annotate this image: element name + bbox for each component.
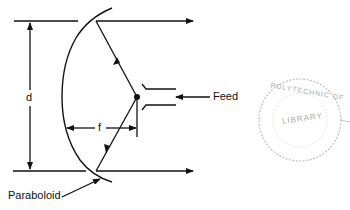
- feed-label: Feed: [213, 91, 238, 102]
- feed-horn-lower: [142, 105, 176, 110]
- paraboloid-label: Paraboloid: [8, 190, 61, 201]
- feed-horn-upper: [142, 84, 176, 89]
- paraboloid-pointer-arrow: [62, 179, 100, 197]
- diameter-label: d: [26, 92, 32, 103]
- parabolic-reflector-diagram: [0, 0, 350, 210]
- ray-focus-to-bottom: [96, 97, 137, 171]
- focal-length-label: f: [98, 122, 101, 133]
